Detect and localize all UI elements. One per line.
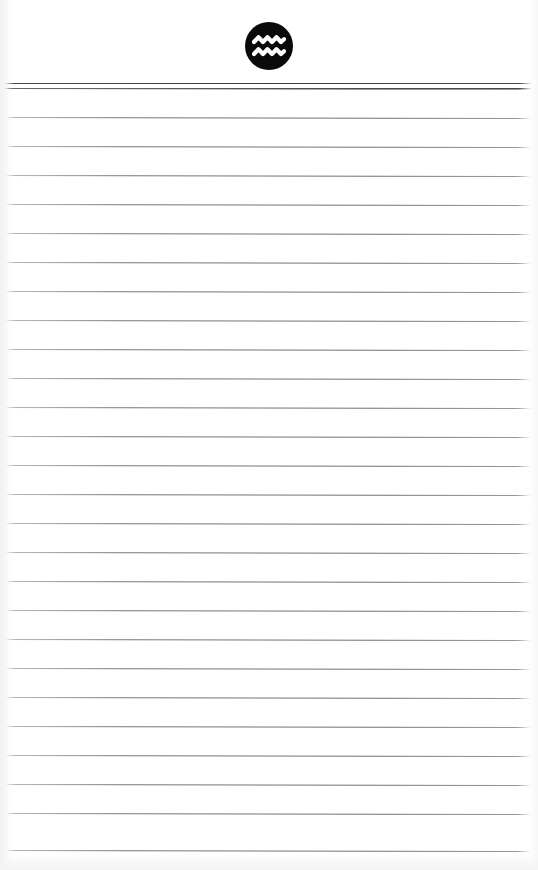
rule-line: [5, 349, 531, 351]
rule-line: [5, 755, 531, 757]
rule-line: [5, 262, 531, 264]
rule-line: [5, 291, 531, 293]
rule-line: [5, 494, 531, 496]
notepad-page: [0, 0, 538, 870]
rule-line: [5, 465, 531, 467]
rule-line: [5, 639, 531, 641]
rule-line: [5, 320, 531, 322]
rule-line: [5, 668, 531, 670]
rule-line: [5, 610, 531, 612]
ruled-lines-group: [0, 0, 538, 870]
rule-line: [5, 697, 531, 699]
rule-line: [5, 726, 531, 728]
rule-line: [5, 175, 531, 177]
rule-line: [5, 233, 531, 235]
rule-line: [5, 204, 531, 206]
rule-line: [5, 407, 531, 409]
rule-line: [5, 88, 531, 90]
rule-line: [5, 523, 531, 525]
rule-line: [5, 784, 531, 786]
rule-line: [5, 552, 531, 554]
rule-line: [5, 850, 531, 852]
rule-line: [5, 378, 531, 380]
rule-line: [5, 117, 531, 119]
rule-line: [5, 813, 531, 815]
rule-line: [5, 581, 531, 583]
rule-line: [5, 146, 531, 148]
rule-line: [5, 436, 531, 438]
